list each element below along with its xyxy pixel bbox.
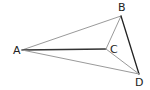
segments-group [22, 16, 139, 74]
point-label-d: D [135, 76, 143, 89]
point-label-a: A [13, 44, 21, 57]
diagram-canvas: A B C D [0, 0, 150, 90]
segment-ab [22, 16, 121, 50]
segment-ac [22, 49, 106, 50]
segment-ad [22, 50, 139, 74]
segment-bd [121, 16, 139, 74]
point-label-b: B [118, 1, 126, 14]
labels-group: A B C D [13, 1, 143, 89]
point-label-c: C [110, 43, 118, 56]
geometry-diagram: A B C D [0, 0, 150, 90]
